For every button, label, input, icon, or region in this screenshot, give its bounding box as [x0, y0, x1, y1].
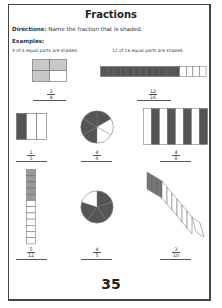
- denominator: 12: [16, 253, 46, 258]
- problem-3-bars-shape: [143, 108, 209, 146]
- example-2-strip-shape: [100, 66, 208, 78]
- answer-line: [160, 161, 191, 162]
- problem-3-fraction: 4 8: [161, 150, 191, 161]
- problem-5-fraction: 4 5: [82, 247, 112, 258]
- denominator: 3: [16, 156, 46, 161]
- examples-label: Examples:: [12, 38, 44, 44]
- answer-line: [81, 259, 112, 260]
- example-2-fraction: 12 16: [138, 89, 168, 100]
- directions: Directions: Name the fraction that is sh…: [12, 26, 142, 32]
- denominator: 5: [82, 253, 112, 258]
- page-number: 35: [0, 276, 222, 292]
- directions-label: Directions:: [12, 26, 46, 32]
- problem-6-diagonal-strip-shape: [146, 170, 206, 242]
- example-1-grid-shape: [32, 59, 68, 83]
- numerator: 5: [16, 247, 46, 252]
- denominator: 6: [82, 156, 112, 161]
- numerator: 4: [82, 150, 112, 155]
- numerator: 4: [161, 150, 191, 155]
- answer-line: [16, 161, 47, 162]
- problem-5-circle-shape: [80, 190, 114, 224]
- problem-4-fraction: 5 12: [16, 247, 46, 258]
- numerator: 1: [16, 150, 46, 155]
- problem-1-bars-shape: [16, 113, 48, 141]
- numerator: 4: [82, 247, 112, 252]
- problem-4-strip-shape: [26, 169, 37, 245]
- page-title: Fractions: [0, 9, 222, 20]
- problem-2-fraction: 4 6: [82, 150, 112, 161]
- answer-line: [16, 259, 47, 260]
- example-1-caption: 3 of 4 equal parts are shaded.: [12, 48, 78, 53]
- numerator: 3: [161, 247, 191, 252]
- example-2-caption: 12 of 16 equal parts are shaded.: [112, 48, 184, 53]
- denominator: 8: [161, 156, 191, 161]
- answer-line: [81, 161, 112, 162]
- denominator: 4: [36, 95, 66, 100]
- denominator: 10: [161, 253, 191, 258]
- answer-line: [33, 100, 66, 101]
- problem-6-fraction: 3 10: [161, 247, 191, 258]
- numerator: 3: [36, 89, 66, 94]
- answer-line: [137, 100, 171, 101]
- answer-line: [160, 259, 191, 260]
- problem-1-fraction: 1 3: [16, 150, 46, 161]
- directions-text: Name the fraction that is shaded.: [46, 26, 142, 32]
- numerator: 12: [138, 89, 168, 94]
- example-1-fraction: 3 4: [36, 89, 66, 100]
- denominator: 16: [138, 95, 168, 100]
- problem-2-circle-shape: [80, 110, 114, 144]
